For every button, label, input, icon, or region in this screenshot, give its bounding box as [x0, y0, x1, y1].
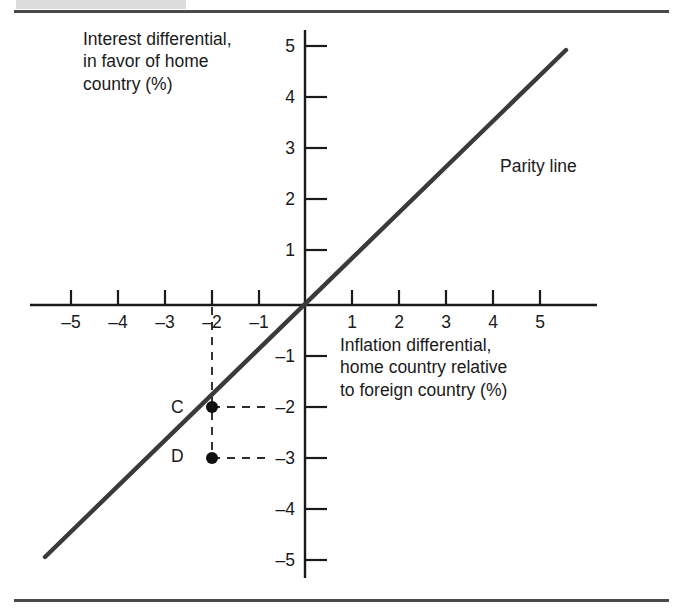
y-tick-label-minus-1: –1 [255, 345, 295, 367]
parity-line-label: Parity line [500, 155, 577, 177]
y-tick-label-minus-2: –2 [255, 396, 295, 418]
x-tick-label-3: 3 [426, 311, 466, 333]
x-tick-label-minus-1: –1 [239, 311, 279, 333]
x-tick-label-2: 2 [379, 311, 419, 333]
point-c [206, 401, 218, 413]
y-tick-label-minus-4: –4 [255, 498, 295, 520]
y-tick-label-5: 5 [255, 35, 295, 57]
x-tick-label-1: 1 [332, 311, 372, 333]
x-tick-label-minus-2: –2 [192, 311, 232, 333]
point-d-label: D [171, 445, 184, 467]
x-tick-label-minus-4: –4 [98, 311, 138, 333]
y-tick-label-2: 2 [255, 188, 295, 210]
y-tick-label-3: 3 [255, 137, 295, 159]
x-tick-label-4: 4 [473, 311, 513, 333]
x-tick-label-minus-3: –3 [145, 311, 185, 333]
y-tick-label-minus-3: –3 [255, 447, 295, 469]
y-axis-title: Interest differential, in favor of home … [83, 28, 232, 95]
figure-container: Interest differential, in favor of home … [0, 0, 683, 609]
y-tick-label-minus-5: –5 [255, 549, 295, 571]
x-tick-label-minus-5: –5 [51, 311, 91, 333]
x-tick-label-5: 5 [520, 311, 560, 333]
x-axis-title: Inflation differential, home country rel… [340, 334, 507, 401]
point-c-label: C [171, 396, 184, 418]
y-tick-label-1: 1 [255, 239, 295, 261]
y-tick-label-4: 4 [255, 86, 295, 108]
point-d [206, 452, 218, 464]
